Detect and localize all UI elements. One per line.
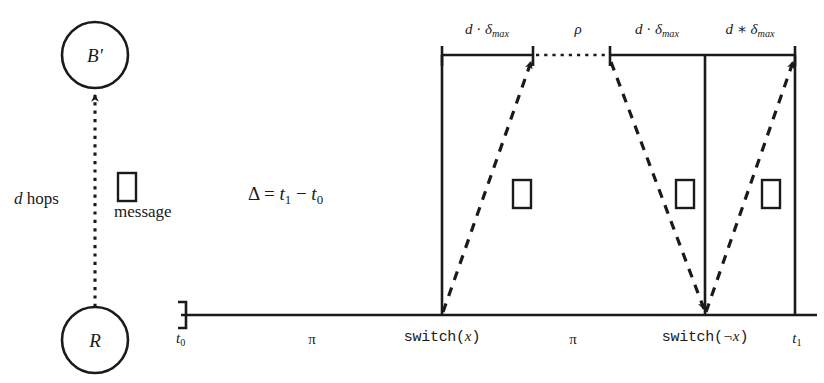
segment-label-1-sub: max [492, 28, 509, 39]
message-box-icon-3 [762, 180, 780, 208]
message-box-icon-2 [676, 180, 694, 208]
message-box-icon-1 [513, 180, 531, 208]
axis-event-label-switch-not-x: switch(¬x) [662, 329, 748, 345]
node-label-r: R [89, 331, 101, 350]
node-label-b-prime-text: B [87, 45, 99, 66]
segment-label-2-sym: δ [655, 21, 662, 37]
node-label-b-prime: B′ [87, 46, 103, 65]
segment-label-1-sym: δ [485, 21, 492, 37]
segment-label-3-op: ∗ [733, 21, 751, 37]
delta-symbol: Δ [248, 183, 259, 204]
diagram-vector-layer [0, 0, 824, 383]
segment-label-1-op: · [473, 21, 486, 37]
axis-end-label-t1-sub: 1 [797, 337, 802, 348]
axis-event-label-switch-not-x-arg: ¬x [723, 328, 740, 344]
segment-label-3-var: d [725, 21, 733, 37]
axis-event-label-switch-x-close: ) [471, 329, 480, 346]
segment-label-2-var: d [635, 21, 643, 37]
axis-end-label-t1: t1 [792, 331, 801, 348]
axis-start-label-t0-sub: 0 [180, 337, 185, 348]
segment-label-rho: ρ [574, 22, 581, 37]
axis-event-label-switch-x: switch(x) [404, 329, 480, 345]
hops-label-text: hops [23, 189, 59, 208]
message-glyph-group [118, 173, 780, 208]
delta-equals: = [259, 183, 279, 204]
axis-start-label-t0: t0 [176, 331, 185, 348]
message-trajectory-group [443, 62, 793, 312]
axis-pi-label-right: π [569, 332, 577, 347]
delta-minus: − [291, 183, 311, 204]
segment-label-2-sub: max [662, 28, 679, 39]
diagram-canvas: B′ R d hops message Δ = t1 − t0 d · δmax… [0, 0, 824, 383]
segment-label-2-op: · [643, 21, 656, 37]
delta-t0-sub: 0 [317, 192, 323, 207]
delta-equation: Δ = t1 − t0 [248, 184, 323, 207]
axis-event-label-switch-not-x-fn: switch( [662, 329, 723, 346]
axis-event-label-switch-x-arg: x [465, 328, 472, 344]
segment-label-2: d · δmax [635, 22, 679, 39]
hops-label-var: d [14, 189, 23, 208]
segment-label-1-var: d [465, 21, 473, 37]
message-box-icon-hop [118, 173, 136, 201]
segment-label-rho-sym: ρ [574, 21, 581, 37]
axis-event-label-switch-not-x-close: ) [740, 329, 749, 346]
axis-event-label-switch-x-fn: switch( [404, 329, 465, 346]
axis-pi-label-left: π [308, 332, 316, 347]
segment-label-3-sub: max [758, 28, 775, 39]
segment-label-3: d ∗ δmax [725, 22, 774, 39]
node-label-b-prime-mark: ′ [99, 45, 103, 66]
message-caption: message [114, 203, 172, 220]
hops-label: d hops [14, 190, 59, 207]
segment-label-1: d · δmax [465, 22, 509, 39]
